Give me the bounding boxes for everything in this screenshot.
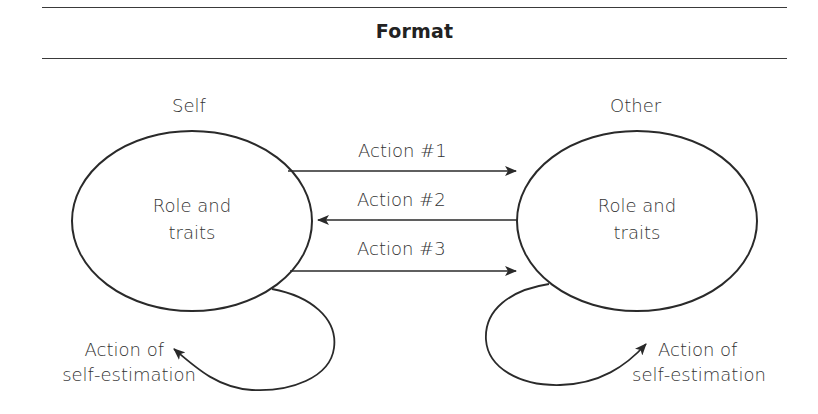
self-node-content: Role and traits [112,192,272,246]
self-estimation-label-other-line1: Action of [632,337,802,362]
self-estimation-label-other-line2: self-estimation [632,362,802,387]
other-heading: Other [610,97,661,115]
other-node-content-line2: traits [557,219,717,246]
self-estimation-loop-self [174,289,334,390]
self-node-content-line2: traits [112,219,272,246]
self-estimation-label-self-line1: Action of [40,337,196,362]
self-estimation-label-self: Action of self-estimation [40,337,196,387]
action-2-label: Action #2 [357,191,446,209]
action-3-label: Action #3 [357,240,446,258]
action-1-label: Action #1 [358,142,447,160]
self-estimation-loop-other [486,284,646,385]
self-heading: Self [172,97,206,115]
other-node-content: Role and traits [557,192,717,246]
self-estimation-label-other: Action of self-estimation [632,337,802,387]
other-node-content-line1: Role and [557,192,717,219]
self-estimation-label-self-line2: self-estimation [40,362,196,387]
self-node-content-line1: Role and [112,192,272,219]
